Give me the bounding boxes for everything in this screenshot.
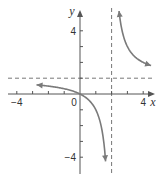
left-branch-start-arrow-icon <box>37 82 43 88</box>
x-tick-label: 4 <box>140 97 146 108</box>
y-tick-label: 4 <box>70 26 76 37</box>
x-tick-label: −4 <box>11 97 23 108</box>
x-tick-label: 0 <box>71 97 77 108</box>
y-tick-label: −4 <box>65 152 77 163</box>
rational-function-graph: −4044−4xy <box>0 0 161 182</box>
right-branch <box>119 11 151 66</box>
y-axis-arrow-icon <box>77 10 83 17</box>
y-axis-label: y <box>68 4 75 18</box>
x-axis-label: x <box>149 95 156 109</box>
right-branch-end-arrow-icon <box>144 61 151 67</box>
left-branch-end-arrow-icon <box>102 155 108 161</box>
